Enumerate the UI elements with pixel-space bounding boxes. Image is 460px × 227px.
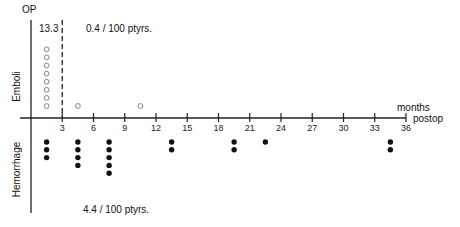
emboli-marker <box>44 96 49 101</box>
hemorrhage-rate-label: 4.4 / 100 ptyrs. <box>83 204 149 215</box>
x-tick-label: 6 <box>91 123 96 133</box>
x-tick-label: 27 <box>307 123 317 133</box>
x-tick-label: 33 <box>370 123 380 133</box>
x-tick-label: 30 <box>338 123 348 133</box>
hemorrhage-marker <box>75 139 80 144</box>
x-tick-label: 24 <box>276 123 286 133</box>
x-axis-ticks: 369121518212427303336 <box>60 113 411 133</box>
x-tick-label: 15 <box>182 123 192 133</box>
hemorrhage-marker <box>75 147 80 152</box>
x-axis-label-months: months <box>397 102 430 113</box>
axes <box>20 20 406 213</box>
hemorrhage-axis-label: Hemorrhage <box>11 137 22 203</box>
op-label: OP <box>22 4 36 15</box>
hemorrhage-marker <box>106 163 111 168</box>
emboli-marker <box>44 47 49 52</box>
emboli-rate-label: 0.4 / 100 ptyrs. <box>86 23 152 34</box>
hemorrhage-marker <box>169 147 174 152</box>
x-tick-label: 36 <box>401 123 411 133</box>
x-tick-label: 12 <box>151 123 161 133</box>
x-tick-label: 21 <box>245 123 255 133</box>
hemorrhage-marker <box>75 155 80 160</box>
emboli-marker <box>44 79 49 84</box>
hemorrhage-marker <box>44 147 49 152</box>
x-tick-label: 18 <box>213 123 223 133</box>
hemorrhage-marker <box>106 155 111 160</box>
emboli-marker <box>44 71 49 76</box>
x-axis-label-postop: postop <box>413 113 443 124</box>
hemorrhage-marker <box>44 155 49 160</box>
hemorrhage-marker <box>75 163 80 168</box>
emboli-marker <box>44 87 49 92</box>
data-markers <box>44 47 393 176</box>
hemorrhage-marker <box>231 139 236 144</box>
hemorrhage-marker <box>44 139 49 144</box>
hemorrhage-marker <box>106 147 111 152</box>
emboli-marker <box>44 55 49 60</box>
emboli-marker <box>44 63 49 68</box>
emboli-marker <box>75 104 80 109</box>
emboli-marker <box>138 104 143 109</box>
hemorrhage-marker <box>106 139 111 144</box>
chart-canvas: 369121518212427303336 <box>0 0 460 227</box>
emboli-axis-label: Emboli <box>11 67 22 107</box>
x-tick-label: 3 <box>60 123 65 133</box>
hemorrhage-marker <box>169 139 174 144</box>
hemorrhage-marker <box>388 139 393 144</box>
early-emboli-rate-label: 13.3 <box>39 23 58 34</box>
hemorrhage-marker <box>388 147 393 152</box>
hemorrhage-marker <box>231 147 236 152</box>
hemorrhage-marker <box>106 171 111 176</box>
emboli-marker <box>44 104 49 109</box>
hemorrhage-marker <box>263 139 268 144</box>
x-tick-label: 9 <box>122 123 127 133</box>
